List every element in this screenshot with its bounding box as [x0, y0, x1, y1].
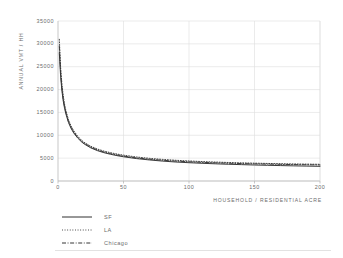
legend-label: LA	[104, 227, 112, 233]
x-tick-label: 0	[56, 184, 60, 190]
gridlines	[58, 21, 320, 181]
legend-swatch-la	[62, 226, 92, 234]
x-axis-title: HOUSEHOLD / RESIDENTIAL ACRE	[0, 197, 322, 203]
series-line-chicago	[59, 46, 320, 165]
legend-item-sf[interactable]: SF	[62, 210, 202, 223]
x-tick-label: 100	[184, 184, 195, 190]
footer-divider	[55, 250, 331, 251]
legend-item-chicago[interactable]: Chicago	[62, 236, 202, 249]
x-tick-label: 50	[120, 184, 127, 190]
legend-swatch-chicago	[62, 239, 92, 247]
legend-swatch-sf	[62, 213, 92, 221]
x-tick-label: 200	[315, 184, 326, 190]
legend-label: SF	[104, 214, 112, 220]
chart-figure: ANNUAL VMT / HH 050001000015000200002500…	[0, 0, 343, 258]
legend-label: Chicago	[104, 240, 128, 246]
legend-item-la[interactable]: LA	[62, 223, 202, 236]
series-line-la	[59, 39, 320, 164]
chart-legend: SFLAChicago	[62, 210, 202, 249]
data-series	[59, 39, 320, 166]
x-tick-label: 150	[249, 184, 260, 190]
